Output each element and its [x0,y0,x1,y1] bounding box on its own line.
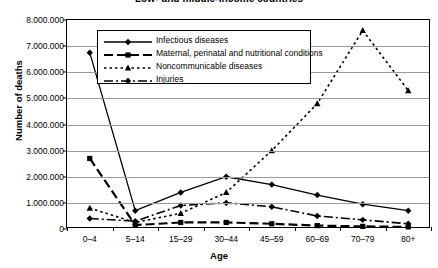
legend-marker [125,52,130,57]
legend-label: Maternal, perinatal and nutritional cond… [154,48,323,58]
legend-label: Injuries [154,74,183,84]
x-axis-tick-label: 70–79 [351,234,375,244]
data-point-marker [360,224,365,229]
x-axis-tick-label: 5–14 [126,234,145,244]
data-point-marker [178,210,184,216]
gridline [67,177,429,178]
series-line [90,158,409,226]
legend-marker [125,39,131,45]
chart-legend: Infectious diseasesMaternal, perinatal a… [97,30,311,84]
legend-marker [125,78,131,84]
y-axis-tick-label: 4.000.000 [26,120,64,130]
data-point-marker [360,217,366,223]
legend-item: Noncommunicable diseases [102,60,306,72]
data-point-marker [87,205,93,211]
x-axis-tick-label: 45–59 [260,234,284,244]
y-axis-tick-mark [63,176,67,177]
x-axis-tick-mark [67,227,68,231]
chart-title: Low- and middle-income countries [0,0,438,4]
legend-label: Noncommunicable diseases [154,61,262,71]
data-point-marker [178,189,184,195]
data-point-marker [178,220,183,225]
y-axis-label: Number of deaths [13,41,24,161]
y-axis-tick-label: 6.000.000 [26,67,64,77]
x-axis-label: Age [0,250,438,261]
data-point-marker [87,156,92,161]
x-axis-tick-mark [386,227,387,231]
x-axis-tick-label: 60–69 [305,234,329,244]
data-point-marker [360,27,366,33]
gridline [67,98,429,99]
legend-item: Infectious diseases [102,34,306,46]
legend-marker [125,65,131,71]
data-point-marker [269,204,275,210]
x-axis-tick-mark [158,227,159,231]
y-axis-tick-label: 2.000.000 [26,172,64,182]
data-point-marker [87,215,93,221]
legend-label: Infectious diseases [154,35,228,45]
x-axis-tick-mark [204,227,205,231]
y-axis-tick-label: 5.000.000 [26,93,64,103]
x-axis-tick-label: 0–4 [83,234,97,244]
x-axis-tick-label: 80+ [401,234,415,244]
gridline [67,151,429,152]
x-axis-tick-mark [431,227,432,231]
y-axis-tick-mark [63,46,67,47]
y-axis-tick-mark [63,150,67,151]
x-axis-tick-mark [113,227,114,231]
data-point-marker [269,181,275,187]
legend-key-square-icon [102,47,154,59]
data-point-marker [314,192,320,198]
y-axis-tick-mark [63,202,67,203]
y-axis-tick-label: 7.000.000 [26,41,64,51]
data-point-marker [405,208,411,214]
data-point-marker [224,220,229,225]
data-point-marker [314,100,320,106]
data-point-marker [269,221,274,226]
x-axis-tick-mark [249,227,250,231]
data-point-marker [314,213,320,219]
y-axis-tick-label: 1.000.000 [26,198,64,208]
data-point-marker [132,208,138,214]
y-axis-tick-mark [63,72,67,73]
x-axis-tick-mark [295,227,296,231]
legend-key-triangle-icon [102,60,154,72]
legend-item: Maternal, perinatal and nutritional cond… [102,47,306,59]
y-axis-tick-mark [63,98,67,99]
legend-key-diamond-icon [102,34,154,46]
y-axis-tick-label: 8.000.000 [26,15,64,25]
gridline [67,203,429,204]
data-point-marker [223,189,229,195]
legend-key-diamond-icon [102,73,154,85]
y-axis-tick-label: 3.000.000 [26,146,64,156]
x-axis-tick-label: 30–44 [214,234,238,244]
y-axis-tick-mark [63,20,67,21]
gridline [67,125,429,126]
chart-figure: Low- and middle-income countries Number … [0,0,438,268]
data-point-marker [315,223,320,228]
x-axis-tick-mark [340,227,341,231]
x-axis-tick-label: 15–29 [169,234,193,244]
data-point-marker [87,49,93,55]
legend-item: Injuries [102,73,306,85]
y-axis-tick-mark [63,124,67,125]
